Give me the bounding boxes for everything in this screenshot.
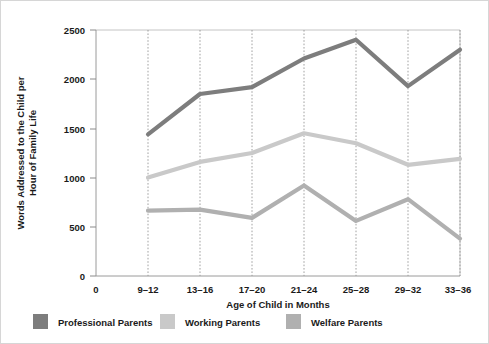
y-tick-label-2000: 2000: [64, 74, 85, 85]
y-axis-title: Words Addressed to the Child per Hour of…: [15, 76, 38, 229]
x-tick-label-9-12: 9–12: [137, 284, 158, 295]
line-chart: 0 500 1000 1500 2000 2500 Words Addresse…: [1, 1, 489, 344]
x-tick-label-0: 0: [93, 284, 98, 295]
x-tick-label-17-20: 17–20: [239, 284, 265, 295]
y-axis-title-line2: Hour of Family Life: [27, 110, 38, 196]
legend-swatch-professional-parents: [33, 314, 48, 329]
gridlines: [148, 30, 460, 276]
y-axis-title-line1: Words Addressed to the Child per: [15, 76, 26, 229]
x-tick-labels: 0 9–12 13–16 17–20 21–24 25–28 29–32 33–…: [93, 284, 471, 295]
chart-legend: Professional Parents Working Parents Wel…: [33, 314, 383, 329]
x-tick-label-21-24: 21–24: [291, 284, 318, 295]
x-axis-title: Age of Child in Months: [226, 299, 329, 310]
y-axis: [90, 30, 96, 276]
x-tick-label-13-16: 13–16: [187, 284, 213, 295]
y-tick-label-500: 500: [69, 222, 85, 233]
y-tick-label-1000: 1000: [64, 173, 85, 184]
x-tick-label-33-36: 33–36: [445, 284, 471, 295]
x-tick-label-25-28: 25–28: [343, 284, 369, 295]
y-tick-labels: 0 500 1000 1500 2000 2500: [64, 25, 85, 282]
y-tick-label-0: 0: [80, 271, 85, 282]
x-tick-label-29-32: 29–32: [395, 284, 421, 295]
plot-frame: [96, 30, 460, 276]
chart-figure: 0 500 1000 1500 2000 2500 Words Addresse…: [0, 0, 489, 344]
legend-swatch-working-parents: [160, 314, 175, 329]
legend-label-working-parents: Working Parents: [185, 317, 260, 328]
legend-label-welfare-parents: Welfare Parents: [311, 317, 383, 328]
legend-swatch-welfare-parents: [286, 314, 301, 329]
y-tick-label-1500: 1500: [64, 124, 85, 135]
legend-label-professional-parents: Professional Parents: [58, 317, 153, 328]
y-tick-label-2500: 2500: [64, 25, 85, 36]
